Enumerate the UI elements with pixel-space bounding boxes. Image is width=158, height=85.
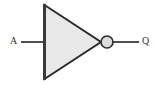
logic-gate-diagram: A Q	[0, 0, 158, 85]
inverter-triangle	[45, 5, 102, 79]
output-label-q: Q	[142, 36, 149, 46]
not-gate-symbol-svg	[0, 0, 158, 85]
input-label-a: A	[10, 36, 17, 46]
inversion-bubble	[101, 36, 113, 48]
